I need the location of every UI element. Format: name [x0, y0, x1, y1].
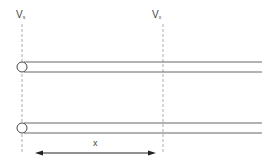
arrowhead-left-icon [35, 151, 43, 156]
arrowhead-right-icon [148, 151, 156, 156]
right-voltage-symbol: V [152, 9, 159, 20]
lower-conductor-end-circle [17, 123, 27, 133]
left-voltage-label: Vs [16, 10, 25, 20]
upper-conductor [17, 62, 262, 72]
left-voltage-symbol: V [16, 9, 23, 20]
lower-conductor [17, 123, 262, 133]
left-voltage-subscript: s [23, 14, 26, 20]
distance-label: x [93, 139, 98, 148]
right-voltage-subscript: x [159, 14, 162, 20]
transmission-line-diagram [0, 0, 273, 163]
distance-arrow [35, 151, 156, 156]
upper-conductor-end-circle [17, 62, 27, 72]
right-voltage-label: Vx [152, 10, 161, 20]
